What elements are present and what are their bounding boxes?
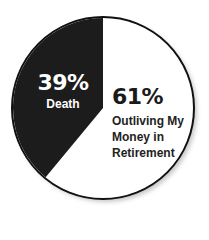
label-outliving: 61% Outliving My Money in Retirement	[112, 86, 192, 161]
death-category: Death	[34, 98, 92, 110]
outliving-category: Outliving My Money in Retirement	[112, 113, 192, 161]
death-percent: 39%	[34, 72, 92, 94]
outliving-line-1: Outliving My	[112, 113, 192, 129]
label-death: 39% Death	[34, 72, 92, 110]
outliving-line-2: Money in	[112, 129, 192, 145]
outliving-percent: 61%	[112, 86, 192, 108]
outliving-line-3: Retirement	[112, 145, 192, 161]
